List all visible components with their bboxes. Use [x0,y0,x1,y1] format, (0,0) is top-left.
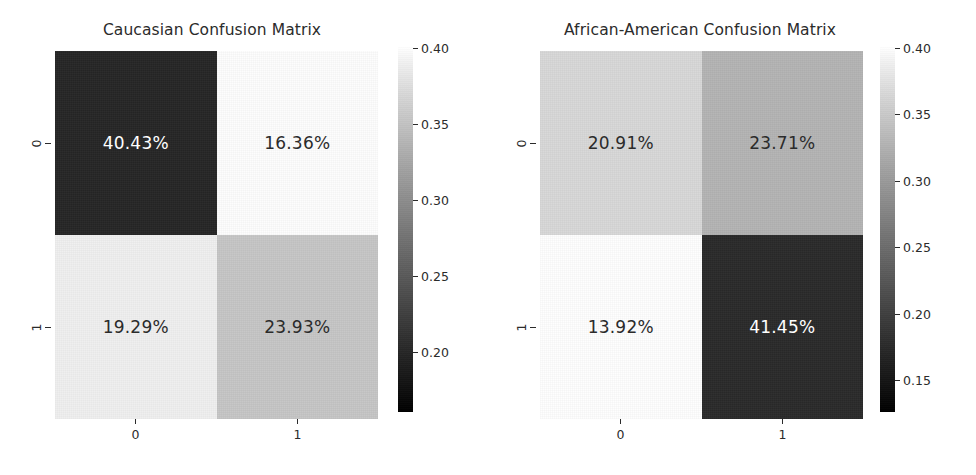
y-axis-tick-0: 0 [0,51,52,235]
colorbar-tick: 0.30 [413,193,449,208]
heatmap-cell-0-1[interactable]: 23.71% [702,51,864,235]
colorbar-tick: 0.25 [413,269,449,284]
heatmap-cell-value: 23.71% [749,133,815,153]
y-axis-tick-mark [45,327,51,328]
y-axis-tick-label: 0 [515,139,530,147]
heatmap-cell-0-1[interactable]: 16.36% [217,51,379,235]
x-axis-tick-mark [620,419,621,424]
colorbar-tick-mark [895,247,900,248]
colorbar-tick-label: 0.15 [903,373,931,388]
x-axis-tick-label: 0 [617,427,625,442]
colorbar-tick-label: 0.40 [903,41,931,56]
heatmap-cell-value: 40.43% [103,133,169,153]
colorbar-tick-label: 0.35 [421,117,449,132]
colorbar-tick: 0.30 [895,174,931,189]
colorbar-gradient [398,47,413,412]
heatmap-grid-caucasian: 40.43% 16.36% 19.29% 23.93% [55,51,378,419]
x-axis-tick-mark [297,419,298,424]
colorbar-tick: 0.35 [413,117,449,132]
panel-caucasian: Caucasian Confusion Matrix 40.43% 16.36%… [0,0,488,475]
colorbar-tick: 0.15 [895,373,931,388]
colorbar-tick: 0.40 [895,41,931,56]
x-axis-tick-0: 0 [540,419,701,442]
heatmap-cell-value: 19.29% [103,317,169,337]
colorbar-tick-mark [895,181,900,182]
x-axis-tick-label: 0 [132,427,140,442]
x-axis-tick-mark [135,419,136,424]
colorbar-tick-label: 0.20 [421,345,449,360]
x-axis-tick-mark [782,419,783,424]
colorbar-tick-label: 0.25 [421,269,449,284]
colorbar-tick-mark [895,48,900,49]
x-axis-tick-1: 1 [217,419,378,442]
colorbar-tick-mark [413,48,418,49]
chart-title-african-american: African-American Confusion Matrix [488,21,912,39]
colorbar-tick-label: 0.40 [421,41,449,56]
y-axis-tick-1: 1 [0,235,52,419]
y-axis-tick-mark [45,143,51,144]
colorbar-tick-mark [895,114,900,115]
heatmap-cell-1-0[interactable]: 19.29% [55,235,217,419]
y-axis-tick-1: 1 [488,235,537,419]
colorbar-tick-mark [413,200,418,201]
heatmap-cell-value: 13.92% [588,317,654,337]
colorbar-tick: 0.20 [413,345,449,360]
x-axis-tick-label: 1 [779,427,787,442]
x-axis-tick-label: 1 [294,427,302,442]
panel-african-american: African-American Confusion Matrix 20.91%… [488,0,976,475]
colorbar-tick: 0.20 [895,307,931,322]
colorbar-tick-label: 0.25 [903,240,931,255]
heatmap-cell-0-0[interactable]: 20.91% [540,51,702,235]
colorbar-tick: 0.25 [895,240,931,255]
colorbar-tick-mark [413,276,418,277]
colorbar-tick: 0.40 [413,41,449,56]
colorbar-tick-mark [413,124,418,125]
colorbar-tick-label: 0.20 [903,307,931,322]
heatmap-grid-african-american: 20.91% 23.71% 13.92% 41.45% [540,51,863,419]
heatmap-cell-value: 16.36% [264,133,330,153]
colorbar-caucasian: 0.40 0.35 0.30 0.25 0.20 [398,47,413,412]
colorbar-tick-label: 0.30 [903,174,931,189]
heatmap-cell-value: 20.91% [588,133,654,153]
colorbar-tick-label: 0.30 [421,193,449,208]
y-axis-tick-label: 1 [515,323,530,331]
x-axis-tick-0: 0 [55,419,216,442]
colorbar-tick-mark [895,380,900,381]
x-axis-tick-1: 1 [702,419,863,442]
chart-title-caucasian: Caucasian Confusion Matrix [0,21,424,39]
colorbar-gradient [880,47,895,412]
heatmap-cell-value: 41.45% [749,317,815,337]
heatmap-cell-1-1[interactable]: 41.45% [702,235,864,419]
heatmap-cell-1-1[interactable]: 23.93% [217,235,379,419]
heatmap-cell-0-0[interactable]: 40.43% [55,51,217,235]
y-axis-tick-mark [530,327,536,328]
confusion-matrix-figure: Caucasian Confusion Matrix 40.43% 16.36%… [0,0,976,475]
colorbar-tick: 0.35 [895,107,931,122]
heatmap-cell-value: 23.93% [264,317,330,337]
y-axis-tick-label: 1 [30,323,45,331]
colorbar-african-american: 0.40 0.35 0.30 0.25 0.20 0.15 [880,47,895,412]
y-axis-tick-mark [530,143,536,144]
heatmap-cell-1-0[interactable]: 13.92% [540,235,702,419]
colorbar-tick-mark [895,314,900,315]
colorbar-tick-label: 0.35 [903,107,931,122]
colorbar-tick-mark [413,352,418,353]
y-axis-tick-label: 0 [30,139,45,147]
y-axis-tick-0: 0 [488,51,537,235]
